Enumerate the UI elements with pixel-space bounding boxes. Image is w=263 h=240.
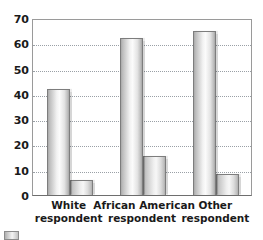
y-axis-tick-label: 60 <box>3 39 29 50</box>
x-axis: WhiterespondentAfrican Americanresponden… <box>32 199 252 233</box>
bar <box>216 174 239 195</box>
bar <box>143 156 166 195</box>
legend-swatch-icon <box>4 231 19 240</box>
bar-chart: 706050403020100 WhiterespondentAfrican A… <box>0 0 263 240</box>
x-axis-category-line-2: respondent <box>167 212 263 225</box>
legend <box>4 231 20 240</box>
y-axis-tick-label: 70 <box>3 14 29 25</box>
y-axis-tick-label: 30 <box>3 115 29 126</box>
bars <box>33 20 251 195</box>
plot-area <box>32 19 252 196</box>
y-axis-tick-label: 50 <box>3 64 29 75</box>
bar <box>47 89 70 195</box>
x-axis-category-label: Otherrespondent <box>167 199 263 225</box>
y-axis-tick-label: 40 <box>3 89 29 100</box>
y-axis-tick-label: 10 <box>3 165 29 176</box>
bar <box>70 180 93 195</box>
bar <box>193 31 216 195</box>
x-axis-category-line-1: Other <box>167 199 263 212</box>
y-axis-tick-label: 20 <box>3 140 29 151</box>
bar <box>120 38 143 195</box>
